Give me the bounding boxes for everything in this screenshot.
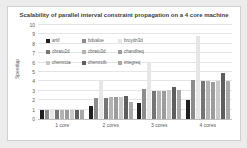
legend-item-chandheq: chandheq xyxy=(118,46,156,57)
plot-area: 012345678910 1 core2 cores3 cores4 cores… xyxy=(38,25,232,120)
screenshot-root: { "chart": { "title": "Scalability of pa… xyxy=(0,0,247,148)
bar-bdvalue-2-cores xyxy=(94,98,98,119)
bar-chemrcta-1-core xyxy=(70,110,74,119)
legend-marker-icon xyxy=(46,50,50,54)
x-tick-label: 2 cores xyxy=(87,122,136,128)
bar-chemrctb-4-cores xyxy=(221,73,225,119)
bar-chandheq-2-cores xyxy=(114,97,118,119)
bar-broydn3d-1-core xyxy=(50,110,54,119)
legend-item-broydn3d: broydn3d xyxy=(118,35,156,46)
legend: artifbdvaluebroydn3dcbratu2dcbratu3dchan… xyxy=(46,35,156,68)
bar-cbratu2d-3-cores xyxy=(152,91,156,119)
legend-label: integreq xyxy=(124,60,140,65)
bar-integreq-1-core xyxy=(80,110,84,119)
bar-bdvalue-3-cores xyxy=(142,89,146,119)
y-tick-label: 8 xyxy=(32,41,35,46)
legend-marker-icon xyxy=(82,61,86,65)
y-axis-label: Speedup xyxy=(14,58,20,78)
y-tick-label: 10 xyxy=(29,23,35,28)
bar-artif-3-cores xyxy=(137,103,141,119)
legend-item-chemrctb: chemrctb xyxy=(82,57,116,68)
bar-chemrctb-3-cores xyxy=(172,87,176,119)
legend-marker-icon xyxy=(118,39,122,43)
bar-cbratu2d-4-cores xyxy=(201,81,205,119)
legend-label: cbratu2d xyxy=(52,49,70,54)
bar-chemrctb-1-core xyxy=(75,110,79,119)
legend-label: chemrcta xyxy=(52,60,71,65)
bar-bdvalue-4-cores xyxy=(191,80,195,119)
legend-label: artif xyxy=(52,38,60,43)
bar-artif-1-core xyxy=(40,110,44,119)
y-tick-label: 9 xyxy=(32,32,35,37)
y-tick-label: 2 xyxy=(32,98,35,103)
bar-artif-2-cores xyxy=(89,106,93,119)
bar-integreq-3-cores xyxy=(177,90,181,119)
bar-integreq-2-cores xyxy=(129,102,133,119)
y-tick-label: 4 xyxy=(32,79,35,84)
bar-bdvalue-1-core xyxy=(45,110,49,119)
bar-cbratu3d-2-cores xyxy=(109,97,113,119)
bar-integreq-4-cores xyxy=(226,81,230,119)
y-tick-label: 3 xyxy=(32,88,35,93)
bar-chandheq-1-core xyxy=(65,110,69,119)
legend-marker-icon xyxy=(82,39,86,43)
y-tick-label: 1 xyxy=(32,107,35,112)
bar-cbratu2d-2-cores xyxy=(104,98,108,119)
legend-marker-icon xyxy=(118,50,122,54)
legend-label: chandheq xyxy=(124,49,144,54)
chart-title: Scalability of parallel interval constra… xyxy=(8,12,240,18)
legend-marker-icon xyxy=(82,50,86,54)
bar-chemrcta-2-cores xyxy=(119,97,123,119)
bar-cbratu3d-1-core xyxy=(60,110,64,119)
bar-chemrcta-3-cores xyxy=(167,90,171,119)
bar-cbratu3d-3-cores xyxy=(157,91,161,119)
legend-marker-icon xyxy=(118,61,122,65)
x-tick-label: 4 cores xyxy=(184,122,233,128)
bar-broydn3d-3-cores xyxy=(147,62,151,119)
bar-broydn3d-2-cores xyxy=(99,81,103,119)
bar-broydn3d-4-cores xyxy=(196,36,200,119)
bar-chemrcta-4-cores xyxy=(216,81,220,119)
bar-chemrctb-2-cores xyxy=(124,96,128,119)
y-tick-label: 0 xyxy=(32,117,35,122)
bar-chandheq-4-cores xyxy=(211,82,215,119)
y-tick-label: 5 xyxy=(32,70,35,75)
bar-artif-4-cores xyxy=(186,100,190,119)
bar-chandheq-3-cores xyxy=(162,91,166,119)
legend-item-artif: artif xyxy=(46,35,80,46)
legend-item-cbratu3d: cbratu3d xyxy=(82,46,116,57)
legend-item-cbratu2d: cbratu2d xyxy=(46,46,80,57)
y-tick-label: 6 xyxy=(32,60,35,65)
legend-label: broydn3d xyxy=(124,38,143,43)
legend-marker-icon xyxy=(46,39,50,43)
legend-item-chemrcta: chemrcta xyxy=(46,57,80,68)
legend-label: chemrctb xyxy=(88,60,107,65)
legend-marker-icon xyxy=(46,61,50,65)
y-tick-label: 7 xyxy=(32,51,35,56)
legend-item-bdvalue: bdvalue xyxy=(82,35,116,46)
bar-group-4-cores: 4 cores xyxy=(184,25,233,119)
x-tick-label: 3 cores xyxy=(135,122,184,128)
bar-cbratu2d-1-core xyxy=(55,110,59,119)
legend-label: bdvalue xyxy=(88,38,104,43)
x-tick-label: 1 core xyxy=(38,122,87,128)
legend-label: cbratu3d xyxy=(88,49,106,54)
bar-cbratu3d-4-cores xyxy=(206,81,210,119)
chart-panel: Scalability of parallel interval constra… xyxy=(7,6,241,141)
legend-item-integreq: integreq xyxy=(118,57,156,68)
